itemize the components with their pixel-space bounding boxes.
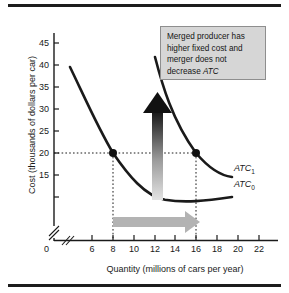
callout-line-4-prefix: decrease: [167, 67, 203, 76]
annotation-callout-box: Merged producer has higher fixed cost an…: [160, 26, 266, 80]
quantity-increase-arrow: [113, 211, 200, 233]
x-tick-label-20: 20: [229, 244, 247, 254]
atc0-curve: [70, 67, 232, 201]
callout-line-2: higher fixed cost and: [167, 43, 260, 55]
x-tick-label-8: 8: [104, 244, 122, 254]
x-tick-label-6: 6: [83, 244, 101, 254]
callout-line-4-italic-atc: ATC: [203, 67, 219, 76]
x-tick-label-14: 14: [166, 244, 184, 254]
y-tick-label-0: 0: [31, 244, 49, 254]
atc1-label-text: ATC: [234, 163, 251, 173]
atc0-label-text: ATC: [234, 179, 251, 189]
x-tick-label-10: 10: [125, 244, 143, 254]
atc1-point-marker: [192, 149, 200, 157]
x-tick-label-16: 16: [187, 244, 205, 254]
x-tick-label-12: 12: [146, 244, 164, 254]
atc0-label-subscript: 0: [251, 184, 255, 191]
callout-line-4: decrease ATC: [167, 66, 260, 78]
x-tick-label-22: 22: [250, 244, 268, 254]
atc1-label-subscript: 1: [251, 168, 255, 175]
atc1-curve-label: ATC1: [234, 163, 255, 175]
vertical-shift-arrow: [143, 92, 172, 200]
atc0-curve-label: ATC0: [234, 179, 255, 191]
figure-container: 45 40 35 30 25 20 15 0 6 8 10 12 14 16 1…: [0, 0, 289, 293]
y-axis-title: Cost (thousands of dollars per car): [27, 30, 37, 220]
callout-line-1: Merged producer has: [167, 31, 260, 43]
y-axis-ticks: [54, 43, 59, 197]
x-tick-label-18: 18: [208, 244, 226, 254]
atc0-point-marker: [109, 149, 117, 157]
x-axis-title: Quantity (millions of cars per year): [75, 264, 275, 274]
callout-line-3: merger does not: [167, 54, 260, 66]
x-axis-ticks: [92, 235, 259, 240]
